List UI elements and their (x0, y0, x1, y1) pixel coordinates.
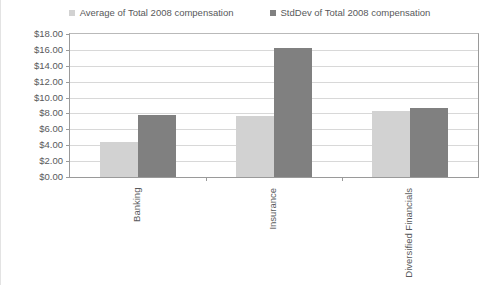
y-axis-tick-label: $8.00 (39, 109, 63, 119)
y-axis-tick (66, 177, 70, 178)
bar-average[interactable] (100, 142, 138, 177)
bar-stddev[interactable] (410, 108, 448, 177)
y-axis-tick-label: $0.00 (39, 172, 63, 182)
y-axis-tick-label: $10.00 (34, 93, 63, 103)
y-axis-tick-label: $18.00 (34, 29, 63, 39)
bar-average[interactable] (236, 116, 274, 177)
x-axis-category-label: Insurance (205, 183, 341, 283)
y-axis-tick-label: $14.00 (34, 61, 63, 71)
y-axis-tick-label: $12.00 (34, 77, 63, 87)
x-axis-category-label: Banking (69, 183, 205, 283)
chart-container: Average of Total 2008 compensation StdDe… (0, 0, 497, 285)
x-axis-tick (342, 177, 343, 181)
y-axis-tick-label: $4.00 (39, 140, 63, 150)
y-axis-tick (66, 98, 70, 99)
y-axis-tick (66, 66, 70, 67)
legend-entry-stddev: StdDev of Total 2008 compensation (270, 8, 431, 18)
x-axis-category-label-text: Diversified Financials (404, 188, 414, 278)
y-axis-tick (66, 161, 70, 162)
y-axis-tick-label: $16.00 (34, 45, 63, 55)
y-axis-tick (66, 50, 70, 51)
chart-legend: Average of Total 2008 compensation StdDe… (1, 8, 497, 18)
y-axis-tick (66, 34, 70, 35)
bar-stddev[interactable] (274, 48, 312, 177)
legend-label-average: Average of Total 2008 compensation (80, 8, 234, 18)
x-axis-category-label-text: Banking (132, 188, 142, 222)
legend-swatch-average (69, 10, 75, 16)
y-axis-tick (66, 129, 70, 130)
y-axis-tick-label: $2.00 (39, 156, 63, 166)
y-axis-tick (66, 113, 70, 114)
x-axis-category-label: Diversified Financials (341, 183, 477, 283)
y-axis-tick (66, 82, 70, 83)
plot-area: $0.00$2.00$4.00$6.00$8.00$10.00$12.00$14… (69, 33, 479, 178)
x-axis-category-label-text: Insurance (268, 188, 278, 230)
legend-swatch-stddev (270, 10, 276, 16)
x-axis-tick (206, 177, 207, 181)
bar-stddev[interactable] (138, 115, 176, 177)
legend-label-stddev: StdDev of Total 2008 compensation (281, 8, 431, 18)
legend-entry-average: Average of Total 2008 compensation (69, 8, 234, 18)
y-axis-tick-label: $6.00 (39, 125, 63, 135)
y-axis-tick (66, 145, 70, 146)
bar-average[interactable] (372, 111, 410, 177)
